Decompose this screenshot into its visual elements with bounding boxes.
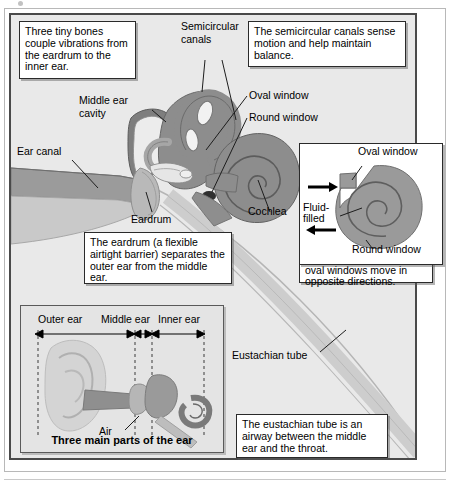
inset-label-round-window: Round window [352,244,421,256]
inset-ear-canal [83,390,133,410]
arrow-out-of-round-window [306,225,336,235]
label-semicircular-canals: Semicircular canals [181,20,239,45]
inset-label-outer-ear: Outer ear [38,314,82,326]
callout-semicircular-canals: The semicircular canals sense motion and… [248,21,406,67]
label-cochlea: Cochlea [248,206,287,218]
label-eardrum: Eardrum [131,214,171,226]
air-leader-line [125,416,139,430]
callout-eustachian-tube: The eustachian tube is an airway between… [236,414,388,458]
inset-label-fluid-filled-line2: filled [303,213,325,225]
callout-three-tiny-bones: Three tiny bones couple vibrations from … [19,21,136,79]
arrow-into-oval-window [308,182,338,192]
dimension-arrows [35,330,205,338]
inset-label-oval-window: Oval window [358,146,418,158]
label-middle-ear-cavity: Middle ear cavity [79,94,141,119]
figure-root: Semicircular canals Middle ear cavity Ea… [0,0,450,486]
inset-cochlea-spiral [190,404,202,418]
callout-eardrum: The eardrum (a flexible airtight barrier… [84,232,232,284]
inset-label-middle-ear: Middle ear [101,314,150,326]
label-oval-window: Oval window [249,90,309,102]
oval-window-notch [340,173,356,188]
three-parts-of-ear-drawing [21,306,225,454]
label-eustachian-tube: Eustachian tube [232,350,307,362]
cochlea-detail-inset: Oval window Fluid- filled Round window [299,143,443,265]
label-round-window: Round window [249,112,318,124]
inset-caption: Three main parts of the ear [21,434,223,446]
page-corner-mark [18,1,23,6]
inset-label-inner-ear: Inner ear [158,314,200,326]
inset-vestibule [145,375,177,418]
label-ear-canal: Ear canal [17,146,61,158]
three-parts-of-ear-inset: Outer ear Middle ear Inner ear Air Three… [20,305,224,453]
figure-bottom-rule [4,479,446,480]
